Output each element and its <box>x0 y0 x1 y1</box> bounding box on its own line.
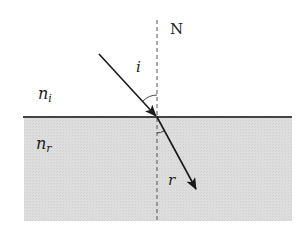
refraction-diagram: N i r ni nr <box>0 0 306 232</box>
normal-label: N <box>170 20 183 38</box>
lower-medium-label-sub: r <box>46 142 52 155</box>
lower-medium-label-base: n <box>36 134 46 153</box>
incidence-angle-arc <box>143 95 157 101</box>
upper-medium-label-sub: i <box>48 92 52 105</box>
upper-medium-label-base: n <box>38 84 48 103</box>
refraction-angle-label: r <box>168 171 176 189</box>
incidence-angle-label: i <box>136 58 141 76</box>
upper-medium-label: ni <box>38 84 52 105</box>
incident-ray <box>99 54 156 116</box>
